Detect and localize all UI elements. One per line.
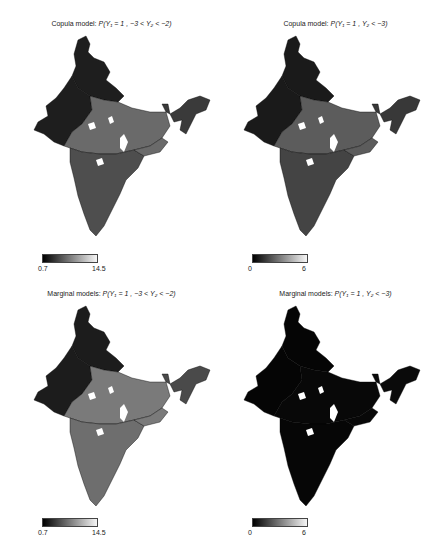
panel-title: Marginal models: P(Y₁ = 1 , −3 < Y₂ < −2… bbox=[0, 290, 223, 297]
colorbar-min-label: 0 bbox=[248, 265, 252, 272]
panel-title-prefix: Marginal models: bbox=[279, 290, 334, 297]
panel-title-formula: P(Y₁ = 1 , −3 < Y₂ < −2) bbox=[103, 290, 176, 297]
panel-title: Copula model: P(Y₁ = 1 , −3 < Y₂ < −2) bbox=[0, 20, 223, 27]
colorbar bbox=[42, 518, 98, 527]
colorbar-max-label: 6 bbox=[302, 529, 306, 536]
colorbar-max-label: 14.5 bbox=[92, 529, 106, 536]
panel-title-prefix: Copula model: bbox=[283, 20, 330, 27]
india-choropleth-map bbox=[20, 30, 220, 245]
map-panel-marginal-range: Marginal models: P(Y₁ = 1 , −3 < Y₂ < −2… bbox=[0, 282, 223, 552]
colorbar-min-label: 0 bbox=[248, 529, 252, 536]
colorbar-min-label: 0.7 bbox=[38, 529, 48, 536]
panel-title: Copula model: P(Y₁ = 1 , Y₂ < −3) bbox=[224, 20, 447, 27]
panel-title-prefix: Copula model: bbox=[51, 20, 98, 27]
panel-title-formula: P(Y₁ = 1 , Y₂ < −3) bbox=[331, 20, 388, 27]
map-panel-marginal-tail: Marginal models: P(Y₁ = 1 , Y₂ < −3) bbox=[224, 282, 447, 552]
colorbar-max-label: 6 bbox=[302, 265, 306, 272]
colorbar bbox=[42, 254, 98, 263]
panel-title-prefix: Marginal models: bbox=[47, 290, 102, 297]
panel-title-formula: P(Y₁ = 1 , Y₂ < −3) bbox=[335, 290, 392, 297]
panel-title: Marginal models: P(Y₁ = 1 , Y₂ < −3) bbox=[224, 290, 447, 297]
colorbar bbox=[252, 518, 308, 527]
india-choropleth-map bbox=[230, 300, 430, 515]
map-panel-copula-tail: Copula model: P(Y₁ = 1 , Y₂ < −3) bbox=[224, 12, 447, 282]
map-panel-copula-range: Copula model: P(Y₁ = 1 , −3 < Y₂ < −2) bbox=[0, 12, 223, 282]
colorbar bbox=[252, 254, 308, 263]
india-choropleth-map bbox=[20, 300, 220, 515]
india-choropleth-map bbox=[230, 30, 430, 245]
colorbar-max-label: 14.5 bbox=[92, 265, 106, 272]
panel-title-formula: P(Y₁ = 1 , −3 < Y₂ < −2) bbox=[99, 20, 172, 27]
colorbar-min-label: 0.7 bbox=[38, 265, 48, 272]
